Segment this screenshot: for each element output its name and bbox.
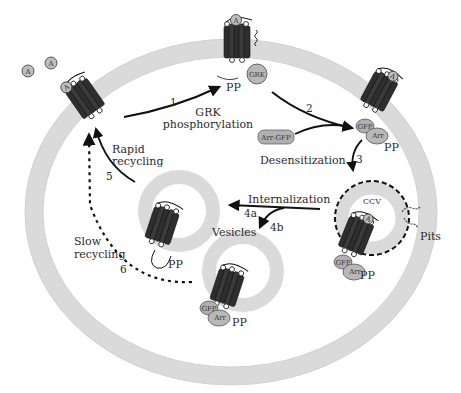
arrow-arr-gfp: [295, 125, 345, 134]
pits-label: Pits: [420, 230, 441, 243]
svg-text:A: A: [24, 68, 31, 76]
svg-text:Arr-GFP: Arr-GFP: [260, 134, 291, 142]
step-4-caption: Internalization: [248, 193, 330, 206]
grk-protein: GRK: [247, 64, 267, 84]
svg-text:A: A: [232, 17, 239, 25]
step-1-label: 1: [170, 96, 177, 108]
step-6-caption: recycling: [74, 248, 125, 261]
step-4b-label: 4b: [270, 221, 284, 233]
step-6-label: 6: [120, 263, 127, 275]
pp-label: PP: [226, 81, 241, 94]
svg-text:CCV: CCV: [363, 197, 381, 206]
step-2-caption: Desensitization: [260, 154, 346, 167]
pp-label: PP: [232, 316, 247, 329]
svg-text:GRK: GRK: [249, 71, 266, 79]
step-1-caption: phosphorylation: [163, 118, 253, 131]
free-ligand: A: [45, 57, 57, 69]
svg-text:Arr: Arr: [371, 132, 384, 140]
pp-label: PP: [360, 269, 375, 282]
svg-text:A: A: [47, 60, 54, 68]
step-6-caption: Slow: [74, 235, 102, 248]
step-5-label: 5: [106, 170, 113, 182]
step-4a-label: 4a: [244, 207, 257, 219]
pp-label: PP: [384, 141, 399, 154]
arr-gfp-free: Arr-GFP: [258, 130, 294, 144]
gpcr-trafficking-diagram: A A A A GRK PP A GFP Arr PP Arr-GFP: [0, 0, 461, 393]
receptor-arrestin-bound: A: [358, 63, 404, 116]
step-5-caption: recycling: [112, 155, 163, 168]
svg-text:Arr: Arr: [213, 314, 226, 322]
step-3-label: 3: [356, 153, 363, 165]
step-2-label: 2: [306, 102, 313, 114]
free-ligand: A: [22, 65, 34, 77]
vesicles-label: Vesicles: [211, 226, 257, 239]
pp-label: PP: [168, 258, 183, 271]
